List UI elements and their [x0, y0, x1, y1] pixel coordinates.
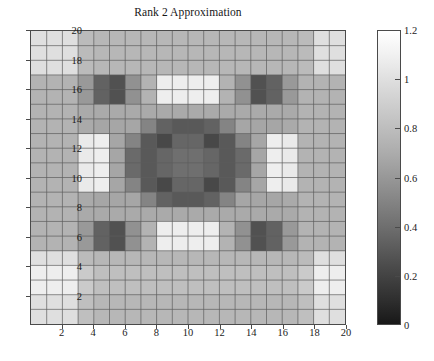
heatmap-cell — [157, 280, 173, 295]
heatmap-cell — [282, 119, 298, 134]
x-tick-mark — [156, 325, 157, 329]
heatmap-cell — [282, 236, 298, 251]
heatmap-cell — [125, 280, 141, 295]
heatmap-cell — [188, 75, 204, 90]
heatmap-cell — [266, 309, 282, 324]
heatmap-cell — [157, 236, 173, 251]
heatmap-cell — [172, 265, 188, 280]
y-tick-mark — [26, 237, 30, 238]
heatmap-cell — [219, 265, 235, 280]
heatmap-cell — [314, 75, 330, 90]
heatmap-cell — [219, 119, 235, 134]
heatmap-cell — [31, 221, 47, 236]
heatmap-cell — [314, 60, 330, 75]
heatmap-cell — [109, 236, 125, 251]
heatmap-cell — [329, 280, 345, 295]
heatmap-cell — [251, 31, 267, 46]
heatmap-cell — [266, 163, 282, 178]
heatmap-cell — [298, 265, 314, 280]
heatmap-cell — [219, 251, 235, 266]
heatmap-cell — [78, 309, 94, 324]
heatmap-cell — [47, 177, 63, 192]
heatmap-cell — [109, 60, 125, 75]
heatmap-cell — [125, 90, 141, 105]
x-tick-mark — [251, 325, 252, 329]
heatmap-cell — [266, 207, 282, 222]
heatmap-cell — [266, 148, 282, 163]
heatmap-cell — [204, 90, 220, 105]
heatmap-cell — [314, 207, 330, 222]
heatmap-cell — [94, 280, 110, 295]
heatmap-cell — [109, 265, 125, 280]
heatmap-cell — [157, 221, 173, 236]
heatmap-cell — [31, 148, 47, 163]
colorbar-tick-mark — [395, 227, 400, 228]
heatmap-cell — [235, 119, 251, 134]
heatmap-cell — [282, 46, 298, 61]
heatmap-cell — [219, 177, 235, 192]
heatmap-cell — [125, 236, 141, 251]
heatmap-cell — [31, 90, 47, 105]
heatmap-cell — [47, 104, 63, 119]
heatmap-cell — [157, 207, 173, 222]
y-tick-label: 10 — [72, 172, 83, 183]
heatmap-cell — [47, 60, 63, 75]
heatmap-cell — [109, 90, 125, 105]
heatmap-cell — [125, 31, 141, 46]
y-tick-mark — [26, 296, 30, 297]
heatmap-cell — [219, 134, 235, 149]
heatmap-cell — [109, 207, 125, 222]
heatmap-cell — [329, 295, 345, 310]
heatmap-cell — [251, 148, 267, 163]
heatmap-cell — [109, 75, 125, 90]
heatmap-cell — [314, 104, 330, 119]
heatmap-cell — [251, 295, 267, 310]
heatmap-cell — [266, 46, 282, 61]
heatmap-cell — [235, 163, 251, 178]
heatmap-cell — [47, 31, 63, 46]
heatmap-cell — [157, 309, 173, 324]
heatmap-cell — [204, 221, 220, 236]
heatmap-cell — [298, 119, 314, 134]
heatmap-cell — [329, 75, 345, 90]
heatmap-cell — [266, 236, 282, 251]
heatmap-cell — [235, 221, 251, 236]
heatmap-cell — [157, 31, 173, 46]
heatmap-cell — [157, 46, 173, 61]
heatmap-cell — [125, 265, 141, 280]
heatmap-cell — [314, 46, 330, 61]
x-tick-mark — [314, 325, 315, 329]
heatmap-cell — [266, 31, 282, 46]
heatmap-cell — [157, 75, 173, 90]
chart-title: Rank 2 Approximation — [0, 6, 376, 18]
heatmap-cell — [31, 309, 47, 324]
heatmap-cell — [235, 265, 251, 280]
heatmap-cell — [31, 295, 47, 310]
heatmap-cell — [157, 148, 173, 163]
heatmap-cell — [329, 192, 345, 207]
heatmap-cell — [157, 60, 173, 75]
x-tick-mark — [125, 325, 126, 329]
heatmap-cell — [47, 265, 63, 280]
heatmap-cell — [204, 148, 220, 163]
heatmap-cell — [172, 104, 188, 119]
heatmap-cell — [329, 177, 345, 192]
heatmap-cell — [125, 221, 141, 236]
heatmap-cell — [109, 148, 125, 163]
heatmap-cell — [94, 265, 110, 280]
heatmap-cell — [282, 31, 298, 46]
heatmap-cell — [141, 295, 157, 310]
heatmap-cell — [125, 295, 141, 310]
heatmap-cell — [298, 236, 314, 251]
heatmap-cell — [266, 90, 282, 105]
heatmap-cell — [298, 60, 314, 75]
heatmap-cell — [188, 31, 204, 46]
heatmap-cell — [282, 60, 298, 75]
y-tick-label: 8 — [77, 202, 82, 213]
heatmap-cell — [282, 163, 298, 178]
heatmap-cell — [31, 265, 47, 280]
heatmap-cell — [219, 90, 235, 105]
heatmap-cell — [62, 192, 78, 207]
heatmap-cell — [204, 295, 220, 310]
heatmap-cell — [204, 309, 220, 324]
